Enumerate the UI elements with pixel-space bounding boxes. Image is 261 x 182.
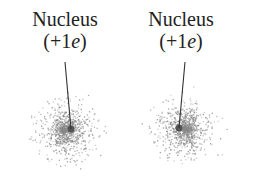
electron-cloud-right — [142, 87, 228, 165]
charge-text: (+1e) — [15, 30, 115, 52]
hydrogen-atoms-diagram: Nucleus (+1e) Nucleus (+1e) — [0, 0, 261, 182]
nucleus-label-right: Nucleus (+1e) — [131, 8, 231, 52]
charge-text: (+1e) — [131, 30, 231, 52]
nucleus-text: Nucleus — [15, 8, 115, 30]
electron-cloud-left — [29, 92, 107, 170]
nucleus-label-left: Nucleus (+1e) — [15, 8, 115, 52]
nucleus-text: Nucleus — [131, 8, 231, 30]
